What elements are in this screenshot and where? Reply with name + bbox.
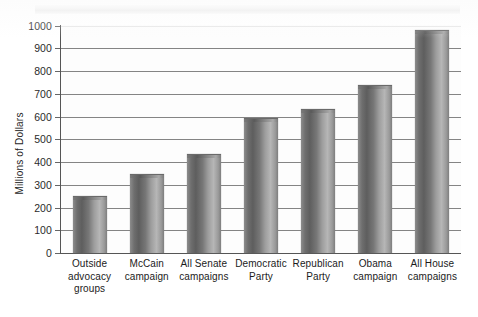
category-label-line: advocacy bbox=[58, 271, 121, 284]
bar-fill bbox=[358, 85, 392, 253]
bar-fill bbox=[187, 154, 221, 253]
y-tick-mark-500 bbox=[55, 139, 60, 140]
y-tick-mark-300 bbox=[55, 185, 60, 186]
y-tick-label-500: 500 bbox=[6, 133, 52, 145]
x-category-label-1: Outsideadvocacygroups bbox=[58, 258, 121, 296]
category-label-line: All Senate bbox=[172, 258, 235, 271]
category-label-line: campaigns bbox=[401, 271, 464, 284]
category-label-line: Outside bbox=[58, 258, 121, 271]
category-label-line: campaigns bbox=[172, 271, 235, 284]
x-category-label-4: DemocraticParty bbox=[229, 258, 292, 283]
y-tick-mark-900 bbox=[55, 48, 60, 49]
category-label-line: Democratic bbox=[229, 258, 292, 271]
y-tick-label-600: 600 bbox=[6, 111, 52, 123]
category-label-line: groups bbox=[58, 283, 121, 296]
bar-fill bbox=[244, 118, 278, 253]
bar-fill bbox=[130, 174, 164, 253]
y-tick-label-1000: 1000 bbox=[6, 20, 52, 32]
bar-top-cap bbox=[415, 31, 449, 34]
x-category-label-2: McCaincampaign bbox=[115, 258, 178, 283]
bar-fill bbox=[415, 30, 449, 253]
bar-1 bbox=[73, 197, 107, 253]
bar-top-cap bbox=[358, 86, 392, 89]
category-label-line: McCain bbox=[115, 258, 178, 271]
bar-top-cap bbox=[244, 119, 278, 122]
y-tick-mark-700 bbox=[55, 94, 60, 95]
y-tick-label-700: 700 bbox=[6, 88, 52, 100]
bar-top-cap bbox=[130, 175, 164, 178]
y-tick-mark-0 bbox=[55, 253, 60, 254]
y-axis-tick-labels: 10009008007006005004003002001000 bbox=[0, 0, 52, 317]
gridline-800 bbox=[61, 71, 461, 72]
bar-top-cap bbox=[73, 197, 107, 200]
bar-fill bbox=[301, 109, 335, 253]
bar-top-cap bbox=[301, 110, 335, 113]
category-label-line: Party bbox=[229, 271, 292, 284]
bar-4 bbox=[244, 119, 278, 253]
x-category-label-5: RepublicanParty bbox=[287, 258, 350, 283]
x-axis-line bbox=[60, 253, 461, 254]
bar-5 bbox=[301, 110, 335, 253]
y-tick-label-900: 900 bbox=[6, 42, 52, 54]
category-label-line: Obama bbox=[344, 258, 407, 271]
y-tick-label-0: 0 bbox=[6, 247, 52, 259]
category-label-line: Republican bbox=[287, 258, 350, 271]
y-tick-label-800: 800 bbox=[6, 65, 52, 77]
gridline-900 bbox=[61, 48, 461, 49]
bar-2 bbox=[130, 175, 164, 253]
gridline-700 bbox=[61, 94, 461, 95]
bar-6 bbox=[358, 86, 392, 253]
y-tick-mark-400 bbox=[55, 162, 60, 163]
y-tick-label-200: 200 bbox=[6, 202, 52, 214]
bar-fill bbox=[73, 196, 107, 253]
bar-top-cap bbox=[187, 155, 221, 158]
bar-7 bbox=[415, 31, 449, 253]
category-label-line: Party bbox=[287, 271, 350, 284]
bar-chart: Millions of Dollars 10009008007006005004… bbox=[0, 0, 478, 317]
y-tick-mark-200 bbox=[55, 208, 60, 209]
y-axis-line bbox=[60, 25, 61, 254]
y-tick-mark-1000 bbox=[55, 26, 60, 27]
category-label-line: All House bbox=[401, 258, 464, 271]
bar-3 bbox=[187, 155, 221, 253]
y-tick-label-300: 300 bbox=[6, 179, 52, 191]
x-category-label-7: All Housecampaigns bbox=[401, 258, 464, 283]
y-tick-mark-600 bbox=[55, 117, 60, 118]
y-tick-label-100: 100 bbox=[6, 224, 52, 236]
category-label-line: campaign bbox=[344, 271, 407, 284]
y-tick-label-400: 400 bbox=[6, 156, 52, 168]
category-label-line: campaign bbox=[115, 271, 178, 284]
gridline-1000 bbox=[61, 26, 461, 27]
y-tick-mark-800 bbox=[55, 71, 60, 72]
y-tick-mark-100 bbox=[55, 230, 60, 231]
x-category-label-6: Obamacampaign bbox=[344, 258, 407, 283]
x-category-label-3: All Senatecampaigns bbox=[172, 258, 235, 283]
